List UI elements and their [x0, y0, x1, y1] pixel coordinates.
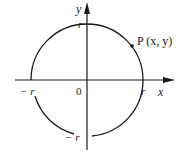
circle-diagram: y x 0 r − r r − r P (x, y) [0, 0, 180, 162]
circle-arc-lower-left [35, 96, 74, 134]
tick-y-positive: r [78, 18, 83, 30]
point-p-label: P (x, y) [137, 34, 172, 48]
tick-y-negative: − r [65, 131, 80, 143]
x-axis-arrow-icon [163, 77, 175, 83]
origin-label: 0 [76, 85, 82, 97]
y-axis-arrow-icon [84, 2, 90, 14]
point-p-marker [130, 44, 134, 48]
tick-x-positive: r [141, 85, 146, 97]
tick-x-negative: − r [20, 85, 35, 97]
x-axis-label: x [157, 85, 164, 99]
y-axis-label: y [75, 2, 82, 16]
